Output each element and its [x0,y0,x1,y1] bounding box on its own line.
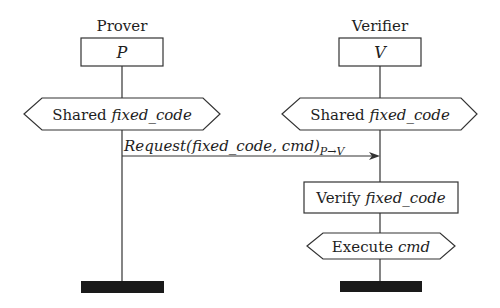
step-text: Verify fixed_code [315,189,446,207]
verifier-terminator [340,281,422,292]
step-text: Shared fixed_code [310,106,450,124]
verifier-shared-fixed-code-step: Shared fixed_code [282,98,477,130]
prover-label: Prover [97,17,149,35]
step-text: Shared fixed_code [52,106,192,124]
verifier-participant: Verifier V [339,17,421,66]
message-label: Request(fixed_code, cmd)P→V [123,137,345,158]
prover-participant: Prover P [81,17,163,66]
verifier-label: Verifier [351,17,409,35]
prover-terminator [81,281,164,293]
request-message: Request(fixed_code, cmd)P→V [122,137,380,160]
protocol-diagram: Prover P Verifier V Shared fixed_code Sh… [0,0,500,308]
step-text: Execute cmd [332,238,430,256]
execute-cmd-step: Execute cmd [307,233,455,259]
prover-symbol: P [116,43,128,62]
prover-shared-fixed-code-step: Shared fixed_code [24,98,220,130]
verifier-symbol: V [374,43,387,62]
verify-fixed-code-step: Verify fixed_code [304,182,458,213]
